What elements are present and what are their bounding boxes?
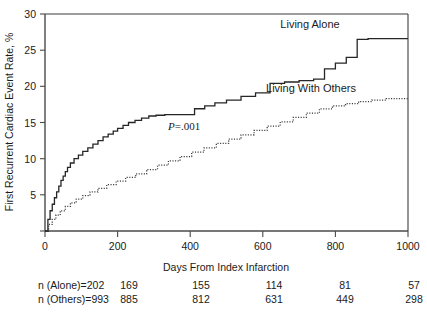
x-ticklabel-600: 600 (254, 240, 272, 252)
x-ticklabel-400: 400 (181, 240, 199, 252)
x-ticklabel-200: 200 (109, 240, 127, 252)
risk-row-label-others: n (Others)=993 (38, 293, 109, 305)
x-axis-title: Days From Index Infarction (163, 261, 289, 273)
y-ticklabel-20: 20 (24, 80, 36, 92)
curve-living-with-others (45, 98, 408, 231)
y-axis-ticks: 30 25 20 15 10 5 (24, 8, 45, 231)
risk-alone-1000: 57 (408, 279, 420, 291)
survival-curve-chart: 30 25 20 15 10 5 0 200 400 600 800 1000 (0, 0, 427, 318)
p-value-annotation: P=.001 (167, 120, 200, 132)
y-ticklabel-30: 30 (24, 8, 36, 20)
risk-alone-200: 169 (120, 279, 138, 291)
y-ticklabel-5: 5 (30, 189, 36, 201)
x-ticklabel-1000: 1000 (396, 240, 420, 252)
chart-annotations: P=.001 Living Alone Living With Others (167, 18, 356, 132)
x-axis-ticks: 0 200 400 600 800 1000 (42, 231, 420, 252)
y-axis-title: First Recurrent Cardiac Event Rate, % (3, 33, 15, 212)
risk-others-400: 812 (192, 293, 210, 305)
x-ticklabel-0: 0 (42, 240, 48, 252)
risk-alone-400: 155 (192, 279, 210, 291)
numbers-at-risk-table: n (Alone)=202 169 155 114 81 57 n (Other… (38, 279, 423, 305)
risk-others-600: 631 (265, 293, 283, 305)
plot-frame (45, 14, 408, 231)
risk-row-label-alone: n (Alone)=202 (38, 279, 104, 291)
risk-alone-800: 81 (339, 279, 351, 291)
risk-others-800: 449 (336, 293, 354, 305)
series-curves (45, 39, 408, 231)
curve-living-alone (45, 39, 408, 231)
risk-others-200: 885 (120, 293, 138, 305)
y-ticklabel-15: 15 (24, 117, 36, 129)
series-label-living-alone: Living Alone (280, 18, 339, 30)
y-ticklabel-10: 10 (24, 153, 36, 165)
y-ticklabel-25: 25 (24, 44, 36, 56)
risk-alone-600: 114 (266, 279, 283, 291)
x-ticklabel-800: 800 (327, 240, 345, 252)
figure-panel: 30 25 20 15 10 5 0 200 400 600 800 1000 (0, 0, 427, 318)
series-label-living-with-others: Living With Others (266, 82, 356, 94)
risk-others-1000: 298 (405, 293, 423, 305)
